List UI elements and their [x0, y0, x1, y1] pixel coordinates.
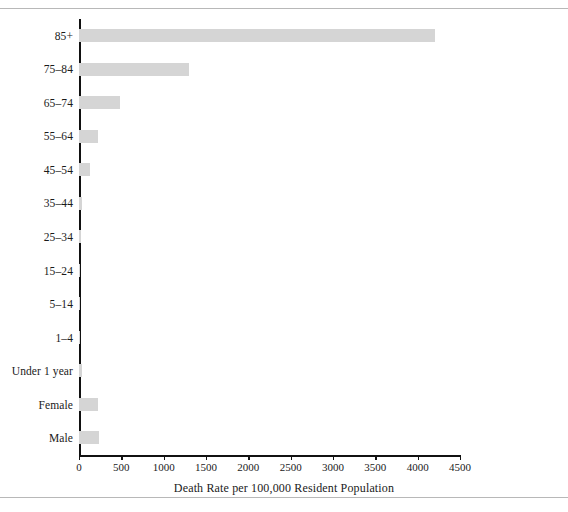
- bar: [79, 197, 82, 210]
- x-axis-tick-label: 4000: [407, 461, 429, 474]
- bar-row: [79, 220, 460, 253]
- y-axis-label: 15–24: [0, 265, 73, 277]
- x-axis-tick-label: 2000: [237, 461, 259, 474]
- bar: [79, 364, 82, 377]
- x-axis-tick-label: 500: [113, 461, 130, 474]
- x-axis-tick-label: 4500: [449, 461, 471, 474]
- y-axis-label: 1–4: [0, 332, 73, 344]
- x-axis-tick: [206, 455, 207, 460]
- y-axis-label: Under 1 year: [0, 365, 73, 377]
- bar-row: [79, 53, 460, 86]
- x-axis-tick-label: 3500: [364, 461, 386, 474]
- bar: [79, 63, 189, 76]
- bar-row: [79, 19, 460, 52]
- x-axis-tick: [79, 455, 80, 460]
- bar: [79, 230, 81, 243]
- bar: [79, 398, 98, 411]
- bar-row: [79, 421, 460, 454]
- x-axis-title: Death Rate per 100,000 Resident Populati…: [0, 481, 568, 496]
- y-axis-label: Female: [0, 399, 73, 411]
- bar: [79, 431, 99, 444]
- x-axis-tick-label: 3000: [322, 461, 344, 474]
- y-axis-label: 45–54: [0, 164, 73, 176]
- bar-row: [79, 287, 460, 320]
- x-axis-tick: [375, 455, 376, 460]
- x-axis-tick-label: 0: [76, 461, 82, 474]
- x-axis-tick: [291, 455, 292, 460]
- x-axis-tick: [164, 455, 165, 460]
- bar: [79, 163, 90, 176]
- x-axis-tick-label: 2500: [280, 461, 302, 474]
- bar-row: [79, 388, 460, 421]
- y-axis-label: 65–74: [0, 97, 73, 109]
- figure-bar-chart: 85+75–8465–7455–6445–5435–4425–3415–245–…: [0, 0, 568, 512]
- x-axis-tick: [333, 455, 334, 460]
- y-axis-category-labels: 85+75–8465–7455–6445–5435–4425–3415–245–…: [0, 19, 73, 455]
- y-axis-label: 5–14: [0, 298, 73, 310]
- y-axis-label: 25–34: [0, 231, 73, 243]
- x-axis-line: [79, 455, 461, 457]
- page-rule-bottom: [0, 497, 568, 498]
- bar: [79, 297, 80, 310]
- y-axis-label: 55–64: [0, 130, 73, 142]
- bar: [79, 96, 120, 109]
- bar: [79, 130, 98, 143]
- x-axis-tick: [418, 455, 419, 460]
- y-axis-label: 75–84: [0, 63, 73, 75]
- bar-row: [79, 254, 460, 287]
- x-axis-tick: [121, 455, 122, 460]
- x-axis-tick-label: 1000: [153, 461, 175, 474]
- bar: [79, 29, 435, 42]
- x-axis-tick: [460, 455, 461, 460]
- page-rule-top: [0, 8, 568, 9]
- y-axis-label: 35–44: [0, 197, 73, 209]
- y-axis-label: 85+: [0, 30, 73, 42]
- bar: [79, 264, 80, 277]
- x-axis-tick-label: 1500: [195, 461, 217, 474]
- bar-row: [79, 153, 460, 186]
- bar-row: [79, 187, 460, 220]
- x-axis-tick: [248, 455, 249, 460]
- plot-area: [79, 19, 460, 455]
- bar-row: [79, 120, 460, 153]
- bar-row: [79, 354, 460, 387]
- bar-row: [79, 86, 460, 119]
- bar: [79, 331, 80, 344]
- y-axis-label: Male: [0, 432, 73, 444]
- bar-row: [79, 321, 460, 354]
